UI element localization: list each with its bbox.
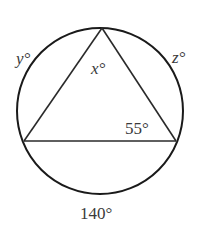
angle-label-55: 55°	[125, 119, 149, 138]
geometry-figure: y° z° x° 55° 140°	[0, 0, 200, 233]
arc-label-140: 140°	[80, 204, 112, 223]
circle	[17, 28, 183, 194]
diagram-canvas: y° z° x° 55° 140°	[0, 0, 200, 233]
triangle-side-left	[24, 28, 102, 141]
arc-label-z: z°	[171, 48, 186, 67]
arc-label-y: y°	[14, 49, 31, 68]
angle-label-x: x°	[90, 59, 106, 78]
